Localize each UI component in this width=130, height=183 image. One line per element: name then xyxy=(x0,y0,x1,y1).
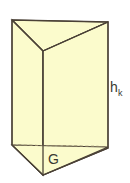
height-label: h xyxy=(110,79,118,95)
prism-base-face xyxy=(12,145,108,175)
prism-figure: h k G xyxy=(0,0,130,183)
base-area-label: G xyxy=(48,151,59,167)
height-label-subscript: k xyxy=(118,88,123,98)
prism-diagram: h k G xyxy=(0,0,130,183)
